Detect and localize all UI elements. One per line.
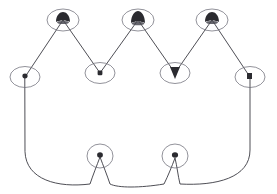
contour-outline — [25, 20, 250, 187]
vertex-blob-v6 — [205, 12, 219, 22]
vertex-blob-v7 — [247, 73, 252, 79]
vertex-marker-v2[interactable] — [47, 9, 79, 31]
vertex-blob-shadow-v2 — [57, 21, 69, 24]
vertex-marker-group — [10, 9, 265, 168]
vertex-marker-v6[interactable] — [196, 9, 228, 31]
vertex-blob-v2 — [56, 12, 70, 22]
vertex-blob-v3 — [98, 71, 103, 76]
vertex-marker-v8[interactable] — [162, 144, 188, 168]
vertex-marker-v3[interactable] — [85, 63, 115, 84]
figure-canvas — [0, 0, 277, 194]
vertex-marker-v9[interactable] — [87, 144, 113, 168]
vertex-blob-v1 — [22, 74, 27, 79]
contour-outline-group — [25, 20, 250, 187]
vertex-blob-v5 — [170, 67, 180, 79]
vertex-blob-shadow-v6 — [206, 21, 218, 24]
vertex-blob-shadow-v4 — [132, 22, 145, 25]
vertex-marker-v5[interactable] — [160, 63, 190, 84]
vertex-blob-v8 — [172, 152, 178, 158]
vertex-blob-v4 — [131, 11, 145, 23]
vertex-blob-v9 — [97, 152, 103, 157]
contour-diagram — [0, 0, 277, 194]
vertex-marker-v4[interactable] — [122, 9, 154, 31]
